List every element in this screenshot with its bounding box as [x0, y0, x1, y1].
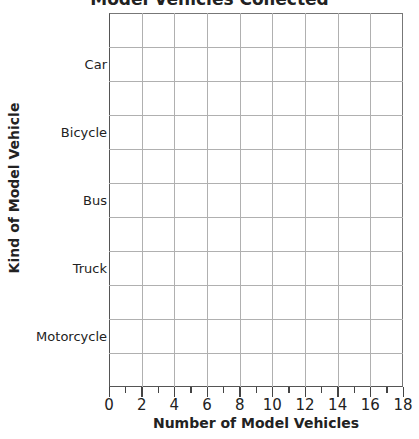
grid-hline — [109, 47, 403, 48]
chart-title: Model Vehicles Collected — [0, 0, 419, 9]
x-tick-label: 18 — [393, 396, 412, 414]
y-axis-title: Kind of Model Vehicle — [6, 103, 22, 274]
plot-area — [109, 13, 403, 387]
x-tick — [223, 387, 225, 393]
grid-vline — [207, 13, 208, 387]
x-tick-label: 0 — [104, 396, 114, 414]
grid-hline — [109, 285, 403, 286]
x-tick-label: 2 — [137, 396, 147, 414]
x-tick — [321, 387, 323, 393]
y-category-label: Bicycle — [61, 125, 107, 140]
y-category-label: Motorcycle — [36, 329, 107, 344]
grid-hline — [109, 217, 403, 218]
grid-vline — [272, 13, 273, 387]
x-tick — [190, 387, 192, 393]
x-tick — [125, 387, 127, 393]
grid-hline — [109, 183, 403, 184]
grid-vline — [338, 13, 339, 387]
chart-grid — [109, 13, 403, 387]
grid-vline — [370, 13, 371, 387]
grid-hline — [109, 81, 403, 82]
x-tick-label: 4 — [170, 396, 180, 414]
x-tick — [386, 387, 388, 393]
x-tick-label: 10 — [263, 396, 282, 414]
grid-hline — [109, 251, 403, 252]
grid-vline — [142, 13, 143, 387]
grid-hline — [109, 115, 403, 116]
grid-vline — [174, 13, 175, 387]
grid-hline — [109, 319, 403, 320]
x-tick — [158, 387, 160, 393]
x-tick-label: 14 — [328, 396, 347, 414]
x-tick — [354, 387, 356, 393]
x-tick-label: 16 — [361, 396, 380, 414]
x-tick — [256, 387, 258, 393]
y-category-label: Bus — [83, 193, 107, 208]
x-tick — [288, 387, 290, 393]
grid-hline — [109, 149, 403, 150]
grid-vline — [240, 13, 241, 387]
y-category-label: Truck — [73, 261, 107, 276]
x-tick-label: 12 — [295, 396, 314, 414]
x-tick-label: 6 — [202, 396, 212, 414]
grid-hline — [109, 353, 403, 354]
grid-vline — [305, 13, 306, 387]
x-tick-label: 8 — [235, 396, 245, 414]
x-axis-title: Number of Model Vehicles — [109, 415, 403, 431]
y-category-label: Car — [85, 57, 107, 72]
